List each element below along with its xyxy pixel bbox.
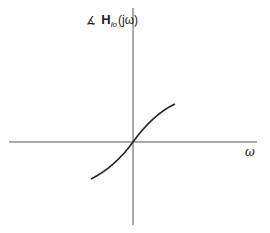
y-label-subscript: lo <box>111 20 117 29</box>
y-label-argument: (jω) <box>118 13 138 27</box>
y-axis-label: ∡ Hlo(jω) <box>86 12 138 29</box>
plot-area <box>0 0 270 233</box>
x-axis-label: ω <box>245 145 255 159</box>
y-label-H: H <box>101 12 110 27</box>
angle-icon: ∡ <box>86 14 96 26</box>
